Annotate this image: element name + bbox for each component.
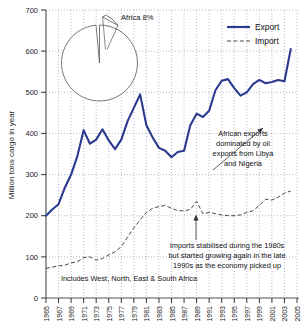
x-tick-label: 1973 — [93, 306, 100, 322]
y-axis-title: Million tons cargo in year — [7, 110, 16, 199]
x-tick-label: 1981 — [143, 306, 150, 322]
x-tick-labels: 1965 1967 1969 1971 1973 1975 1977 1979 … — [43, 306, 301, 322]
y-tick-label: 300 — [25, 170, 38, 179]
x-tick-label: 2003 — [281, 306, 288, 322]
x-tick-marks — [46, 298, 297, 303]
export-annotation-line: exports from Libya — [213, 149, 275, 158]
x-tick-label: 1993 — [219, 306, 226, 322]
x-tick-label: 1971 — [81, 306, 88, 322]
y-tick-label: 100 — [25, 253, 38, 262]
chart-svg: 700 600 500 400 300 200 100 0 Million to… — [0, 0, 307, 334]
x-tick-label: 1999 — [256, 306, 263, 322]
import-annotation-line: 1990s as the economy picked up — [173, 261, 281, 270]
y-tick-label: 400 — [25, 129, 38, 138]
x-tick-label: 1997 — [244, 306, 251, 322]
y-tick-label: 200 — [25, 211, 38, 220]
x-tick-label: 2005 — [294, 306, 301, 322]
x-tick-label: 1987 — [181, 306, 188, 322]
pie-slice-rest-of-world — [61, 25, 137, 101]
y-tick-label: 600 — [25, 47, 38, 56]
x-tick-label: 1965 — [43, 306, 50, 322]
y-tick-label: 500 — [25, 88, 38, 97]
legend-label-import: Import — [255, 36, 279, 46]
export-annotation-line: African exports — [218, 129, 268, 138]
x-tick-label: 1979 — [131, 306, 138, 322]
x-tick-label: 2001 — [269, 306, 276, 322]
import-annotation-line: but started growing again in the late — [168, 251, 285, 260]
import-annotation-line: Imports stabilised during the 1980s — [170, 241, 285, 250]
export-annotation-line: and Nigeria — [224, 159, 263, 168]
x-tick-label: 1975 — [106, 306, 113, 322]
x-tick-label: 1967 — [56, 306, 63, 322]
scope-note: Includes West, North, East & South Afric… — [61, 274, 198, 283]
x-tick-label: 1977 — [118, 306, 125, 322]
x-tick-label: 1969 — [68, 306, 75, 322]
export-annotation-line: dominated by oil — [216, 139, 270, 148]
x-tick-label: 1991 — [206, 306, 213, 322]
x-tick-label: 1989 — [194, 306, 201, 322]
y-tick-label: 700 — [25, 6, 38, 15]
cargo-chart: 700 600 500 400 300 200 100 0 Million to… — [0, 0, 307, 334]
x-tick-label: 1983 — [156, 306, 163, 322]
y-tick-label: 0 — [34, 294, 38, 303]
x-tick-label: 1985 — [169, 306, 176, 322]
x-tick-label: 1995 — [231, 306, 238, 322]
pie-africa-label: Africa 8% — [121, 13, 154, 22]
legend-label-export: Export — [255, 22, 280, 32]
